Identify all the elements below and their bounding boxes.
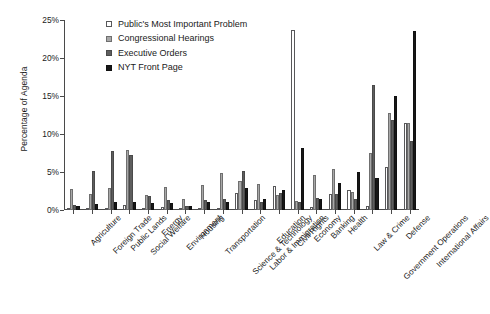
y-axis-tick-label: 20%	[25, 54, 59, 62]
bar-group	[363, 20, 382, 210]
bar	[189, 206, 192, 210]
bar	[207, 202, 210, 210]
bar-group	[83, 20, 102, 210]
legend-item: NYT Front Page	[106, 61, 247, 76]
legend-swatch-icon	[106, 36, 112, 42]
bar	[114, 202, 117, 210]
bar-group	[64, 20, 83, 210]
y-axis-tick-label: 25%	[25, 16, 59, 24]
bar	[133, 202, 136, 210]
legend-swatch-icon	[106, 21, 112, 27]
bar-group	[270, 20, 289, 210]
legend-item-label: Public's Most Important Problem	[118, 20, 247, 29]
y-axis-tick-label: 0%	[25, 206, 59, 214]
bar-group	[288, 20, 307, 210]
bar	[245, 188, 248, 210]
bar	[263, 199, 266, 210]
bar	[301, 148, 304, 210]
bar-group	[382, 20, 401, 210]
legend-item: Public's Most Important Problem	[106, 17, 247, 32]
legend-item: Executive Orders	[106, 46, 247, 61]
bar	[375, 178, 378, 210]
bar	[413, 31, 416, 210]
bar	[76, 206, 79, 210]
bar	[338, 183, 341, 210]
bar-group	[326, 20, 345, 210]
legend-item-label: NYT Front Page	[118, 63, 183, 72]
x-axis-label: Transportation	[225, 214, 268, 257]
bar	[357, 172, 360, 210]
legend-swatch-icon	[106, 65, 112, 71]
bar	[95, 204, 98, 210]
bar-group	[344, 20, 363, 210]
legend-item-label: Congressional Hearings	[118, 34, 214, 43]
bar	[291, 30, 294, 210]
chart-legend: Public's Most Important ProblemCongressi…	[106, 17, 247, 75]
bar	[282, 190, 285, 210]
x-axis-labels: AgricultureForeign TradePublic LandsSoci…	[64, 214, 419, 314]
y-axis-tick-label: 10%	[25, 130, 59, 138]
x-axis-label: Housing	[199, 214, 226, 241]
bar	[226, 202, 229, 210]
bar-group	[400, 20, 419, 210]
legend-swatch-icon	[106, 50, 112, 56]
bar-group	[307, 20, 326, 210]
legend-item: Congressional Hearings	[106, 32, 247, 47]
legend-item-label: Executive Orders	[118, 49, 187, 58]
y-axis-tick-label: 5%	[25, 168, 59, 176]
bar-group	[251, 20, 270, 210]
bar	[111, 151, 114, 210]
bar	[394, 96, 397, 210]
bar	[319, 199, 322, 210]
y-axis-tick-mark	[60, 210, 64, 211]
bar	[170, 203, 173, 210]
bar	[151, 203, 154, 210]
y-axis-tick-label: 15%	[25, 92, 59, 100]
